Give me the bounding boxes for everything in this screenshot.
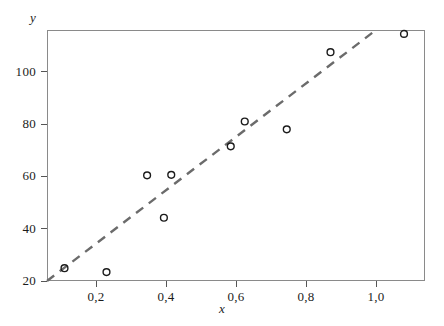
y-tick-mark [41, 228, 47, 229]
data-point [227, 143, 234, 150]
data-point [168, 171, 175, 178]
data-point [283, 126, 290, 133]
y-tick-mark [41, 71, 47, 72]
trend-line [47, 30, 376, 281]
data-point [401, 31, 408, 38]
y-tick-label: 60 [0, 169, 36, 182]
x-tick-mark [236, 281, 237, 287]
data-layer [47, 30, 425, 281]
y-tick-label: 40 [0, 222, 36, 235]
data-point [241, 118, 248, 125]
data-point [327, 49, 334, 56]
data-point [161, 214, 168, 221]
data-point [144, 172, 151, 179]
plot-area [47, 30, 425, 281]
x-axis-title: x [0, 301, 444, 317]
x-tick-mark [376, 281, 377, 287]
data-point [103, 269, 110, 276]
y-tick-label: 20 [0, 274, 36, 287]
y-tick-label: 80 [0, 117, 36, 130]
x-tick-mark [166, 281, 167, 287]
y-axis-title: y [30, 10, 36, 26]
x-tick-mark [96, 281, 97, 287]
y-tick-label: 100 [0, 65, 36, 78]
x-tick-mark [306, 281, 307, 287]
y-tick-mark [41, 176, 47, 177]
y-tick-mark [41, 281, 47, 282]
scatter-plot-figure: y 20406080100 0,20,40,60,81,0 x [0, 0, 444, 326]
y-tick-mark [41, 124, 47, 125]
